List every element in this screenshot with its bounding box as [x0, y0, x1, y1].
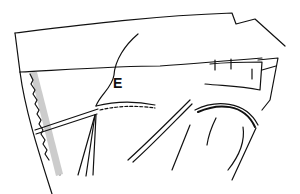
sleeve-fold [128, 100, 190, 160]
arm-outline-right [232, 128, 256, 180]
sleeve-cap-dashed [100, 106, 155, 110]
sleeve-contour [96, 34, 138, 106]
panel-left-edge [15, 33, 20, 72]
sleeve-fold-2 [133, 104, 192, 162]
cuff-lower-2 [198, 106, 255, 127]
sleeve-cap-seam [96, 102, 155, 106]
label-e: E [113, 75, 122, 91]
garment-line-art [0, 0, 300, 194]
right-flap-2 [262, 66, 276, 70]
arm-fold-2 [228, 127, 243, 170]
arm-fold [207, 118, 216, 145]
sewing-illustration: E [0, 0, 300, 194]
panel-top-edge [15, 13, 285, 46]
drape-1 [78, 115, 95, 175]
seam-allowance-fill [30, 72, 63, 176]
arm-outline-left [172, 125, 190, 170]
cuff-upper [205, 62, 262, 90]
seam-line [20, 58, 262, 72]
